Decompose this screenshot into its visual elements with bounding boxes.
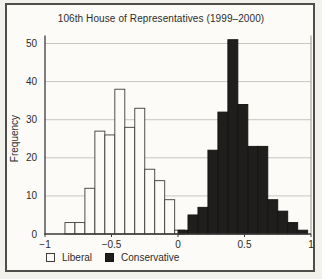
conservative-bar [198,207,208,234]
x-tick-label: 0 [175,239,181,250]
conservative-bar [208,150,218,234]
liberal-bar [125,127,135,234]
legend-label-conservative: Conservative [121,252,179,263]
conservative-bar [268,200,278,234]
conservative-bar [188,215,198,234]
conservative-bar [248,146,258,234]
liberal-bar [85,188,95,234]
y-tick-label: 40 [26,76,38,87]
conservative-bar [228,40,238,234]
liberal-bar [155,181,165,234]
conservative-bar [218,112,228,234]
legend-item-conservative: Conservative [105,252,179,263]
conservative-bar [288,223,298,234]
liberal-swatch-icon [46,253,55,262]
liberal-bar [145,169,155,234]
liberal-bar [95,131,105,234]
histogram-plot: −1−0.500.5101020304050 [0,0,322,279]
x-tick-label: 0.5 [238,239,252,250]
y-tick-label: 20 [26,152,38,163]
conservative-bar [278,211,288,234]
y-tick-label: 30 [26,114,38,125]
x-tick-label: 1 [308,239,314,250]
y-tick-label: 50 [26,38,38,49]
legend-label-liberal: Liberal [62,252,92,263]
x-tick-label: −0.5 [102,239,122,250]
y-tick-label: 0 [31,229,37,240]
liberal-bar [75,223,85,234]
liberal-bar [135,108,145,234]
legend: Liberal Conservative [46,252,179,263]
conservative-bar [238,104,248,234]
conservative-swatch-icon [105,253,114,262]
legend-item-liberal: Liberal [46,252,92,263]
liberal-bar [165,200,175,234]
liberal-bar [65,223,75,234]
x-tick-label: −1 [39,239,51,250]
liberal-bar [105,135,115,234]
liberal-bar [115,89,125,234]
conservative-bar [258,146,268,234]
y-tick-label: 10 [26,190,38,201]
